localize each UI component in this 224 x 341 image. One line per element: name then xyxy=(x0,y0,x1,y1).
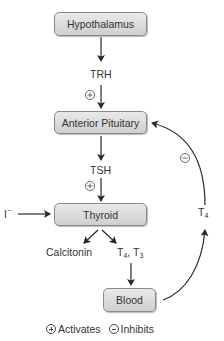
trh-text: TRH xyxy=(90,68,112,80)
trh-label: TRH xyxy=(90,68,112,80)
t3-subscript: 3 xyxy=(139,252,143,259)
activates-legend-icon xyxy=(46,324,56,334)
calcitonin-text: Calcitonin xyxy=(46,246,92,258)
blood-node: Blood xyxy=(103,288,156,312)
t3-text: , T xyxy=(127,246,139,258)
tsh-label: TSH xyxy=(90,164,111,176)
feedback-t4-subscript: 4 xyxy=(204,212,208,219)
arrow-blood-t4 xyxy=(163,230,205,300)
feedback-t4-label: T4 xyxy=(198,206,208,219)
iodide-charge: − xyxy=(7,207,11,214)
t4-t3-label: T4, T3 xyxy=(117,246,143,259)
arrow-thyroid-t4t3 xyxy=(102,230,116,243)
inhibits-legend-label: Inhibits xyxy=(121,323,154,335)
anterior-pituitary-node: Anterior Pituitary xyxy=(54,111,147,134)
activates-legend-label: Activates xyxy=(58,323,101,335)
arrow-thyroid-calcitonin xyxy=(84,230,98,243)
hypothalamus-label: Hypothalamus xyxy=(67,18,134,30)
inhibits-legend-icon xyxy=(109,324,119,334)
arrow-t4-pituitary xyxy=(152,123,205,205)
legend: Activates Inhibits xyxy=(46,323,154,335)
calcitonin-label: Calcitonin xyxy=(46,246,92,258)
tsh-text: TSH xyxy=(90,164,111,176)
thyroid-node: Thyroid xyxy=(54,203,147,226)
hypothalamus-node: Hypothalamus xyxy=(54,12,147,36)
thyroid-label: Thyroid xyxy=(83,209,118,221)
anterior-pituitary-label: Anterior Pituitary xyxy=(62,117,140,129)
blood-label: Blood xyxy=(116,294,143,306)
iodide-label: I− xyxy=(4,207,11,220)
